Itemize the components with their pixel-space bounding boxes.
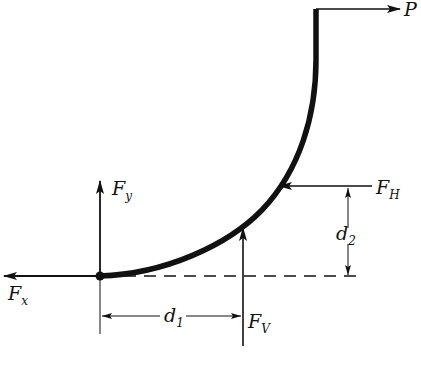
label-d1: d1 <box>164 304 184 330</box>
pin-support-dot <box>96 272 105 281</box>
label-P: P <box>403 0 418 20</box>
curved-member <box>100 9 316 276</box>
label-FV: FV <box>247 310 271 336</box>
label-Fy: Fy <box>111 177 132 203</box>
free-body-diagram: P Fx Fy FH d2 FV d1 <box>0 0 421 382</box>
label-d2: d2 <box>336 222 356 248</box>
label-FH: FH <box>375 176 400 202</box>
label-Fx: Fx <box>7 282 28 308</box>
